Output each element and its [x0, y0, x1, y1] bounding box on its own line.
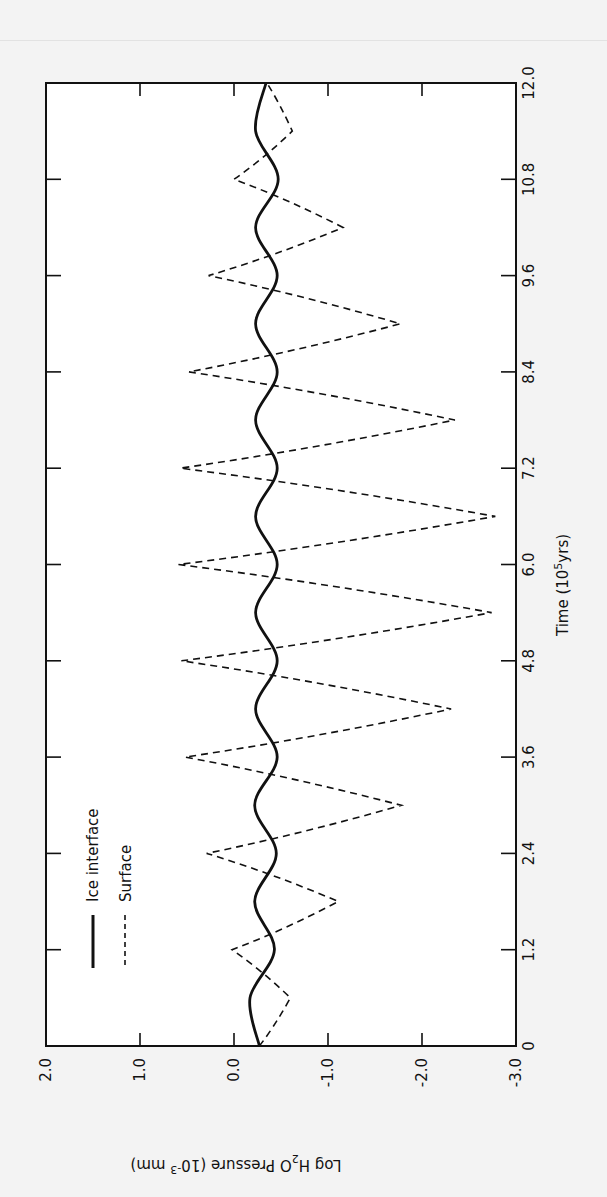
legend-label-surface: Surface — [117, 845, 135, 902]
time-tick-label: 0 — [520, 1041, 538, 1051]
time-tick-label: 7.2 — [520, 456, 538, 480]
value-tick-label: 2.0 — [37, 1058, 55, 1082]
x-axis-title: Time (105yrs) — [552, 534, 572, 637]
value-tick-label: -3.0 — [507, 1058, 525, 1087]
time-tick-label: 12.0 — [520, 66, 538, 99]
time-tick-label: 3.6 — [520, 745, 538, 769]
time-tick-label: 9.6 — [520, 264, 538, 288]
value-tick-label: -1.0 — [319, 1058, 337, 1087]
chart: 01.22.43.64.86.07.28.49.610.812.02.01.00… — [0, 0, 607, 1197]
time-tick-label: 1.2 — [520, 938, 538, 962]
time-tick-label: 6.0 — [520, 553, 538, 577]
time-tick-label: 4.8 — [520, 649, 538, 673]
time-tick-label: 2.4 — [520, 841, 538, 865]
value-tick-label: 1.0 — [131, 1058, 149, 1082]
y-axis-title: Log H2O Pressure (10-3 mm) — [131, 1152, 342, 1176]
value-tick-label: -2.0 — [413, 1058, 431, 1087]
time-tick-label: 8.4 — [520, 360, 538, 384]
value-tick-label: 0.0 — [225, 1058, 243, 1082]
time-tick-label: 10.8 — [520, 163, 538, 196]
legend-label-ice-interface: Ice interface — [84, 808, 102, 902]
